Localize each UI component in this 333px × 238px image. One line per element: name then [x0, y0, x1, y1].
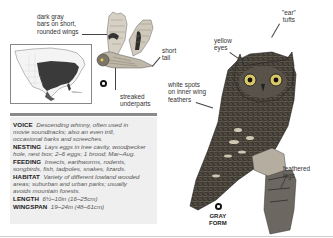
- info-nesting: NESTING Lays eggs in tree cavity, woodpe…: [13, 143, 146, 150]
- callout-text: "ear": [282, 9, 296, 16]
- callout-text: rounded wings: [37, 28, 79, 35]
- callout-streaked-underparts: streaked underparts: [120, 93, 151, 108]
- info-value: Insects, earthworms, rodents,: [45, 158, 126, 165]
- callout-text: yellow: [214, 37, 232, 44]
- callout-text: feathered: [283, 165, 310, 172]
- info-value: 6½–10in (16–25cm): [43, 195, 98, 202]
- north-america-map-icon: [11, 45, 91, 103]
- info-key: NESTING: [13, 143, 41, 150]
- info-wingspan: WINGSPAN 19–24in (48–61cm): [13, 203, 104, 210]
- info-key: LENGTH: [13, 195, 39, 202]
- info-value: songbirds, fish, tadpoles, snakes, lizar…: [13, 165, 126, 172]
- form-label: GRAY FORM: [209, 213, 227, 227]
- info-key: HABITAT: [13, 173, 40, 180]
- info-value: occasional barks and screeches.: [13, 135, 103, 142]
- info-habitat: HABITAT Variety of different lowland woo…: [13, 173, 139, 180]
- info-length: LENGTH 6½–10in (16–25cm): [13, 195, 98, 202]
- species-symbol-icon: [100, 80, 107, 87]
- callout-text: bars on short,: [37, 20, 79, 27]
- info-voice: VOICE Descending whinny, often used in: [13, 121, 128, 128]
- callout-text: tufts: [282, 16, 296, 23]
- info-value: hole, nest box; 2–6 eggs; 1 brood; Mar–A…: [13, 150, 135, 157]
- form-symbol-icon: [215, 203, 222, 210]
- section-divider: [10, 113, 157, 116]
- range-map: [10, 44, 92, 104]
- callout-text: dark gray: [37, 13, 79, 20]
- species-info-box: VOICE Descending whinny, often used in m…: [10, 117, 157, 224]
- info-value: avoids mountain forests.: [13, 187, 80, 194]
- callout-feathered-legs: feathered legs: [283, 165, 310, 180]
- callout-text: feathers: [168, 96, 206, 103]
- perched-owl-illustration: [168, 30, 333, 236]
- callout-text: eyes: [214, 44, 232, 51]
- page-bottom-divider: [0, 236, 333, 237]
- callout-ear-tufts: "ear" tufts: [282, 9, 296, 24]
- info-value: Lays eggs in tree cavity, woodpecker: [45, 143, 146, 150]
- flying-owl-illustration: [95, 10, 163, 76]
- owl-perched-icon: [168, 30, 333, 236]
- info-key: VOICE: [13, 121, 33, 128]
- info-value: Descending whinny, often used in: [36, 121, 128, 128]
- callout-text: legs: [283, 172, 310, 179]
- info-feeding: FEEDING Insects, earthworms, rodents,: [13, 158, 126, 165]
- callout-wing-bars: dark gray bars on short, rounded wings: [37, 13, 79, 35]
- info-value: 19–24in (48–61cm): [51, 203, 104, 210]
- form-label-text: FORM: [209, 220, 227, 227]
- info-key: WINGSPAN: [13, 203, 47, 210]
- callout-white-spots: white spots on inner wing feathers: [168, 81, 206, 103]
- info-value: Variety of different lowland wooded: [43, 173, 139, 180]
- info-value: movie soundtracks; also an even trill,: [13, 128, 114, 135]
- callout-text: white spots: [168, 81, 206, 88]
- callout-yellow-eyes: yellow eyes: [214, 37, 232, 52]
- callout-text: streaked: [120, 93, 151, 100]
- info-key: FEEDING: [13, 158, 41, 165]
- callout-text: underparts: [120, 100, 151, 107]
- form-label-text: GRAY: [209, 213, 227, 220]
- info-value: areas; suburban and urban parks; usually: [13, 180, 127, 187]
- callout-text: on inner wing: [168, 88, 206, 95]
- leader-line: [115, 68, 116, 90]
- owl-flight-icon: [95, 10, 163, 76]
